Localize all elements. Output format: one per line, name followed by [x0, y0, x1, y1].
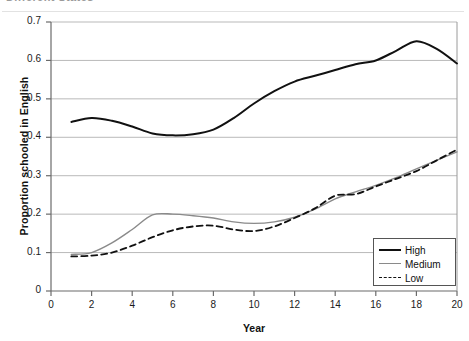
legend-item-high: High — [379, 243, 455, 257]
y-tick-label: 0.7 — [5, 15, 41, 26]
y-tick-label: 0.2 — [5, 207, 41, 218]
y-tick-label: 0.5 — [5, 92, 41, 103]
x-tick-label: 0 — [36, 299, 66, 310]
line-chart: Proportion schooled in English Year 00.1… — [0, 0, 469, 341]
x-tick-label: 12 — [280, 299, 310, 310]
y-tick-label: 0.6 — [5, 53, 41, 64]
y-axis-title: Proportion schooled in English — [18, 46, 30, 266]
legend-label-medium: Medium — [401, 259, 441, 270]
y-tick-label: 0.1 — [5, 246, 41, 257]
legend-line-icon-high — [379, 245, 401, 255]
legend-label-high: High — [401, 245, 426, 256]
x-axis-title: Year — [51, 322, 457, 334]
x-tick-label: 16 — [361, 299, 391, 310]
x-tick-label: 10 — [239, 299, 269, 310]
chart-legend: High Medium Low — [373, 238, 456, 286]
x-tick-label: 20 — [442, 299, 469, 310]
legend-item-low: Low — [379, 271, 455, 285]
y-tick-label: 0 — [5, 284, 41, 295]
chart-svg — [0, 0, 469, 341]
x-tick-label: 14 — [320, 299, 350, 310]
legend-line-icon-low — [379, 273, 401, 283]
legend-line-icon-medium — [379, 259, 401, 269]
x-tick-label: 4 — [117, 299, 147, 310]
gridlines — [51, 22, 457, 253]
legend-label-low: Low — [401, 273, 423, 284]
series-line-high — [71, 41, 457, 135]
x-tick-label: 6 — [158, 299, 188, 310]
screenshot-root: Different States Proportion schooled in … — [0, 0, 469, 341]
y-tick-label: 0.4 — [5, 130, 41, 141]
legend-item-medium: Medium — [379, 257, 455, 271]
x-tick-label: 18 — [401, 299, 431, 310]
x-tick-label: 8 — [198, 299, 228, 310]
y-tick-label: 0.3 — [5, 169, 41, 180]
series-lines — [71, 41, 457, 256]
x-tick-label: 2 — [77, 299, 107, 310]
